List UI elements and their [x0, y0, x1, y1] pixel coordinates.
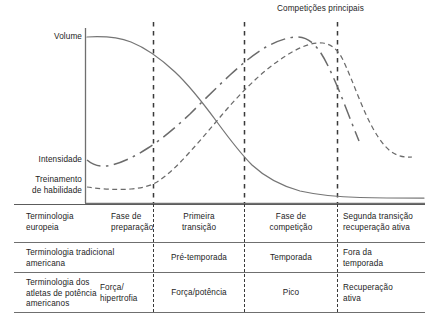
- curve-volume: [87, 37, 424, 198]
- table-rule-2: [14, 272, 425, 273]
- table-divider-3: [337, 204, 338, 312]
- cell-r2c3-line1: Fora da: [343, 248, 438, 259]
- cell-r1c3-line2: competição: [248, 223, 334, 234]
- series-label-intensidade: Intensidade: [39, 155, 82, 166]
- cell-recuperacao-ativa: Recuperação ativa: [343, 283, 438, 304]
- series-label-skill-line2: de habilidade: [32, 186, 82, 197]
- cell-r3c3-line1: Pico: [248, 288, 334, 299]
- cell-pico: Pico: [248, 288, 334, 299]
- cell-r1c2-line1: Primeira: [156, 212, 242, 223]
- curve-skill: [87, 43, 412, 190]
- cell-r3c1-line1: Força/: [100, 283, 154, 294]
- cell-r3c2-line1: Força/potência: [149, 288, 249, 299]
- cell-r1c3-line1: Fase de: [248, 212, 334, 223]
- cell-r1c4-line2: recuperação ativa: [343, 223, 438, 234]
- table-rule-top: [14, 204, 425, 205]
- cell-r1c4-line1: Segunda transição: [343, 212, 438, 223]
- terminology-table: Terminologia europeia Fase de preparação…: [0, 203, 440, 320]
- cell-r3c4-line2: ativa: [343, 294, 438, 305]
- cell-r1c2-line2: transição: [156, 223, 242, 234]
- table-rule-bottom: [14, 312, 425, 313]
- series-label-skill-line1: Treinamento: [32, 175, 82, 186]
- curve-intensidade: [87, 37, 359, 166]
- cell-temporada: Temporada: [248, 253, 334, 264]
- cell-r2c3-line2: temporada: [343, 259, 438, 270]
- cell-r3c1-line2: hipertrofia: [100, 294, 154, 305]
- cell-fora-da-temporada: Fora da temporada: [343, 248, 438, 269]
- table-rule-1: [14, 242, 425, 243]
- annotation-competicoes-principais: Competições principais: [277, 4, 364, 13]
- cell-r2c1-line1: Pré-temporada: [144, 253, 254, 264]
- cell-primeira-transicao: Primeira transição: [156, 212, 242, 233]
- cell-r3c4-line1: Recuperação: [343, 283, 438, 294]
- cell-r2c2-line1: Temporada: [248, 253, 334, 264]
- series-label-volume: Volume: [54, 32, 82, 43]
- chart-plot-area: Volume Intensidade Treinamento de habili…: [0, 0, 440, 212]
- cell-forca-potencia: Força/potência: [149, 288, 249, 299]
- cell-fase-de-competicao: Fase de competição: [248, 212, 334, 233]
- cell-pre-temporada: Pré-temporada: [144, 253, 254, 264]
- cell-forca-hipertrofia: Força/ hipertrofia: [100, 283, 154, 304]
- figure-periodization-chart: Volume Intensidade Treinamento de habili…: [0, 0, 440, 320]
- series-label-skill: Treinamento de habilidade: [32, 175, 82, 196]
- cell-segunda-transicao: Segunda transição recuperação ativa: [343, 212, 438, 233]
